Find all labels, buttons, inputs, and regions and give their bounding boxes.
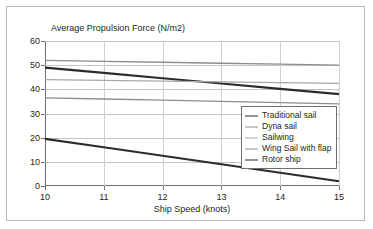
legend: Traditional sailDyna sailSailwingWing Sa… xyxy=(241,106,337,169)
legend-swatch-icon xyxy=(245,134,258,141)
x-axis-tick-mark xyxy=(221,186,222,190)
y-axis-tick-label: 40 xyxy=(30,84,40,94)
y-axis-tick-label: 10 xyxy=(30,157,40,167)
x-axis-tick-label: 10 xyxy=(40,192,50,202)
x-axis-tick-mark xyxy=(45,186,46,190)
x-axis-tick-mark xyxy=(163,186,164,190)
x-axis-title: Ship Speed (knots) xyxy=(45,204,339,214)
x-axis-tick-label: 15 xyxy=(334,192,344,202)
y-axis-tick-label: 60 xyxy=(30,36,40,46)
legend-swatch-icon xyxy=(245,112,258,119)
y-axis-tick-label: 0 xyxy=(35,181,40,191)
legend-item-label: Dyna sail xyxy=(262,121,297,132)
x-axis-tick-label: 13 xyxy=(216,192,226,202)
y-axis-tick-label: 30 xyxy=(30,109,40,119)
x-axis-tick-mark xyxy=(280,186,281,190)
y-axis-tick-label: 50 xyxy=(30,60,40,70)
legend-swatch-icon xyxy=(245,156,258,163)
y-axis-tick-label: 20 xyxy=(30,133,40,143)
x-axis-tick-label: 11 xyxy=(99,192,108,202)
chart-figure: Average Propulsion Force (N/m2) 60504030… xyxy=(6,6,365,221)
legend-swatch-icon xyxy=(245,123,258,130)
y-axis-title: Average Propulsion Force (N/m2) xyxy=(51,23,185,33)
legend-item[interactable]: Sailwing xyxy=(245,132,331,143)
x-axis-tick-mark xyxy=(339,186,340,190)
legend-item[interactable]: Traditional sail xyxy=(245,110,331,121)
legend-item-label: Traditional sail xyxy=(262,110,317,121)
series-line xyxy=(45,60,339,65)
legend-item-label: Wing Sail with flap xyxy=(262,143,331,154)
x-axis-tick-label: 12 xyxy=(158,192,168,202)
legend-swatch-icon xyxy=(245,145,258,152)
legend-item[interactable]: Dyna sail xyxy=(245,121,331,132)
legend-item-label: Sailwing xyxy=(262,132,294,143)
legend-item-label: Rotor ship xyxy=(262,154,301,165)
vertical-gridline xyxy=(339,41,340,186)
legend-item[interactable]: Rotor ship xyxy=(245,154,331,165)
series-line xyxy=(45,98,339,104)
x-axis-tick-label: 14 xyxy=(275,192,285,202)
x-axis-tick-mark xyxy=(104,186,105,190)
legend-item[interactable]: Wing Sail with flap xyxy=(245,143,331,154)
